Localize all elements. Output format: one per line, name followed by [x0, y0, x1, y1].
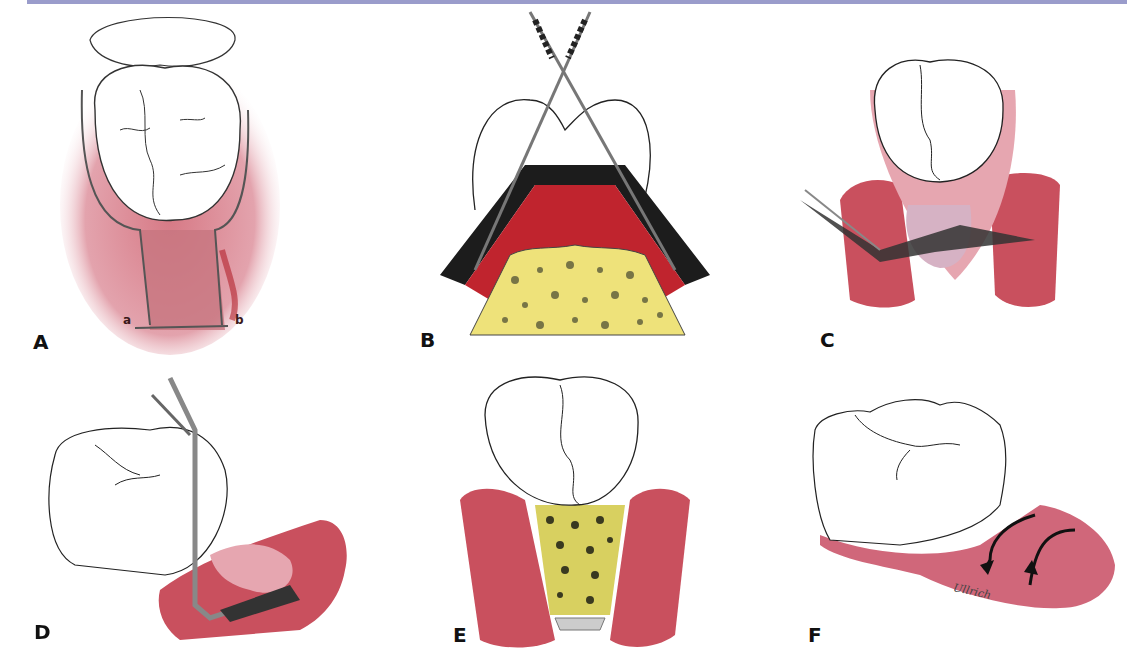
incision-point-b-label: b	[235, 314, 244, 326]
molar-tooth	[874, 60, 1003, 182]
opposing-tooth	[90, 18, 235, 67]
panel-a: a b A	[0, 0, 360, 360]
panel-b-illustration	[400, 0, 760, 360]
panel-e-illustration	[400, 360, 760, 666]
panel-label-a: A	[33, 332, 48, 352]
panel-label-b: B	[420, 330, 435, 350]
molar-tooth	[49, 427, 227, 575]
panel-a-illustration	[0, 0, 360, 360]
panel-label-e: E	[453, 625, 467, 645]
panel-d-illustration	[0, 360, 380, 666]
molar-tooth	[813, 400, 1006, 545]
incision-point-a-label: a	[123, 314, 131, 326]
panel-label-f: F	[808, 625, 822, 645]
panel-e: E	[400, 360, 760, 666]
panel-c-illustration	[790, 0, 1148, 360]
panel-label-d: D	[34, 622, 51, 642]
panel-d: D	[0, 360, 380, 666]
panel-label-c: C	[820, 330, 835, 350]
panel-c: C	[790, 0, 1148, 360]
panel-f-illustration	[790, 360, 1148, 666]
panel-b: B	[400, 0, 760, 360]
panel-f: Ullrich F	[790, 360, 1148, 666]
